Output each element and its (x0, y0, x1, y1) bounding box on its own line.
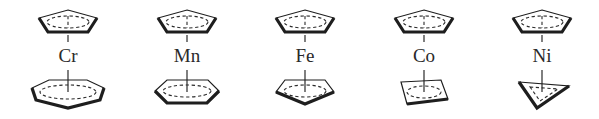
complex-co: Co (395, 10, 453, 104)
complex-cr: Cr (32, 10, 104, 108)
complex-ni: Ni (513, 10, 571, 108)
metal-label-fe: Fe (296, 45, 315, 66)
cp-ring-top-mn-icon (158, 10, 216, 32)
complex-fe: Fe (276, 10, 334, 104)
cp-ring-top-fe-icon (276, 10, 334, 32)
cp-ring-top-ni-icon (513, 10, 571, 32)
metal-label-ni: Ni (533, 45, 552, 66)
metal-label-co: Co (413, 45, 435, 66)
metal-label-mn: Mn (174, 45, 201, 66)
complex-mn: Mn (155, 10, 219, 103)
metal-label-cr: Cr (59, 45, 79, 66)
cp-ring-top-cr-icon (39, 10, 97, 32)
cyclopropenyl-ring-ni-icon (519, 82, 569, 108)
sandwich-complexes-diagram: Cr Mn Fe (0, 0, 599, 119)
cp-ring-top-co-icon (395, 10, 453, 32)
